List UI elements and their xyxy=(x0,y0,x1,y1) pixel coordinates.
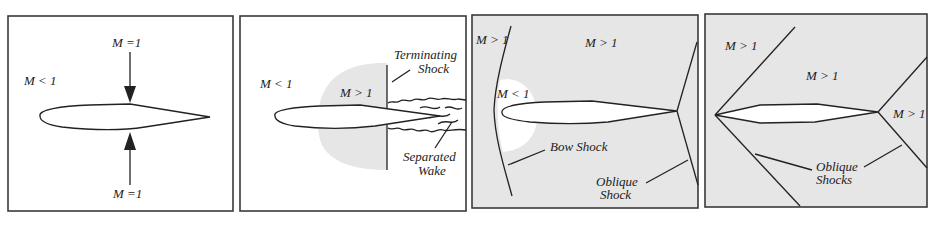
label-subsonic: M < 1 xyxy=(496,86,530,101)
panel-2-transonic: M < 1 M > 1 Terminating Shock Separated … xyxy=(240,16,466,211)
label-upper-left: M > 1 xyxy=(724,38,758,53)
label-wake: Wake xyxy=(418,163,446,178)
label-free-stream: M < 1 xyxy=(23,73,57,88)
label-upstream: M > 1 xyxy=(475,32,509,47)
panel-1-subsonic: M =1 M < 1 M =1 xyxy=(8,16,233,211)
label-shock: Shock xyxy=(418,61,449,76)
label-bow-shock: Bow Shock xyxy=(550,139,608,154)
panel-3-supersonic-bow: M > 1 M > 1 M < 1 Bow Shock Oblique Shoc… xyxy=(472,15,698,208)
label-separated: Separated xyxy=(403,149,456,164)
label-main: M > 1 xyxy=(584,35,618,50)
airfoil-flow-regimes-figure: M =1 M < 1 M =1 M < 1 M > 1 Terminating … xyxy=(0,0,937,234)
label-sonic-top: M =1 xyxy=(111,35,141,50)
label-supersonic-pocket: M > 1 xyxy=(339,85,373,100)
label-sonic-bottom: M =1 xyxy=(112,186,142,201)
label-main: M > 1 xyxy=(805,68,839,83)
label-shocks: Shocks xyxy=(816,172,852,187)
label-trailing: M > 1 xyxy=(892,106,926,121)
label-free-stream: M < 1 xyxy=(259,76,293,91)
panel-4-supersonic-oblique: M > 1 M > 1 M > 1 Oblique Shocks xyxy=(705,14,927,207)
label-shock: Shock xyxy=(600,187,631,202)
label-terminating: Terminating xyxy=(394,47,458,62)
